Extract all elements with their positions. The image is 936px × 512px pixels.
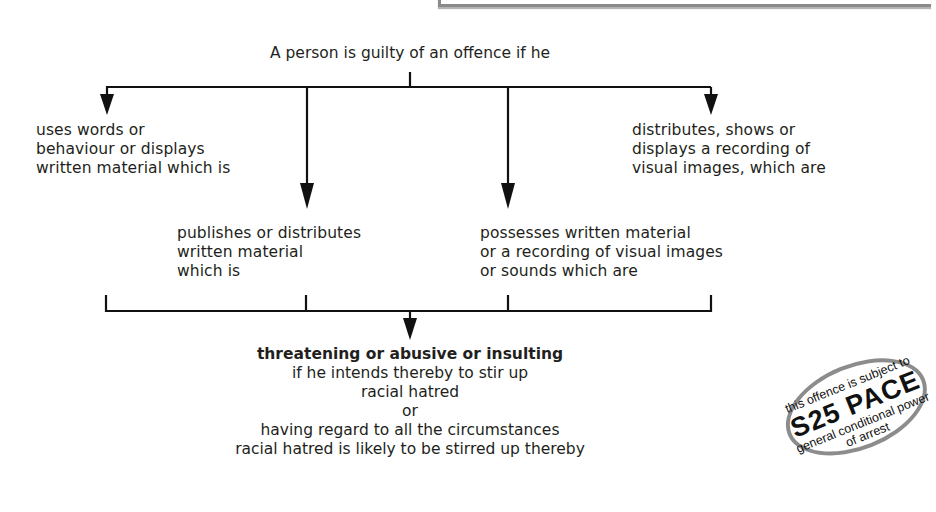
branch-possesses: possesses written material or a recordin… <box>480 224 723 281</box>
result-line: racial hatred <box>180 383 640 402</box>
result-bold-line: threatening or abusive or insulting <box>180 345 640 364</box>
arrow-to-uses-words <box>100 87 114 115</box>
branch-line: which is <box>177 262 361 281</box>
result-line: or <box>180 402 640 421</box>
branch-line: distributes, shows or <box>632 121 826 140</box>
branch-line: visual images, which are <box>632 159 826 178</box>
branch-line: written material <box>177 243 361 262</box>
result-line: if he intends thereby to stir up <box>180 364 640 383</box>
branch-line: or a recording of visual images <box>480 243 723 262</box>
branch-publishes: publishes or distributes written materia… <box>177 224 361 281</box>
branch-uses-words: uses words or behaviour or displays writ… <box>36 121 230 178</box>
result-line: having regard to all the circumstances <box>180 421 640 440</box>
branch-line: uses words or <box>36 121 230 140</box>
arrow-to-distributes-recording <box>704 87 718 115</box>
offence-result: threatening or abusive or insulting if h… <box>180 345 640 459</box>
branch-line: possesses written material <box>480 224 723 243</box>
branch-distributes-recording: distributes, shows or displays a recordi… <box>632 121 826 178</box>
branch-line: behaviour or displays <box>36 140 230 159</box>
diagram-heading: A person is guilty of an offence if he <box>230 44 590 62</box>
branch-line: publishes or distributes <box>177 224 361 243</box>
branch-line: or sounds which are <box>480 262 723 281</box>
arrow-to-publishes <box>300 87 314 209</box>
branch-line: written material which is <box>36 159 230 178</box>
branch-line: displays a recording of <box>632 140 826 159</box>
result-line: racial hatred is likely to be stirred up… <box>180 440 640 459</box>
arrow-to-result <box>403 311 417 340</box>
bottom-bracket <box>105 295 712 312</box>
arrow-to-possesses <box>501 87 515 209</box>
